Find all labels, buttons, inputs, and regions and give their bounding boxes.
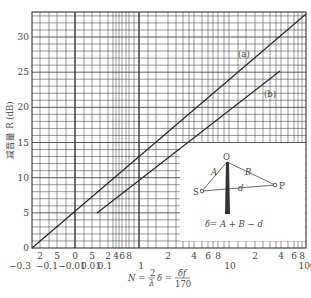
y-tick-labels: 051015202530 [18, 32, 30, 253]
svg-text:25: 25 [18, 67, 30, 77]
x-axis-label: N = 2 λ δ = δf 170 [127, 268, 191, 289]
svg-text:0.1: 0.1 [98, 261, 112, 271]
svg-text:5: 5 [89, 251, 95, 261]
svg-text:5: 5 [23, 208, 29, 218]
svg-text:4: 4 [191, 251, 197, 261]
inset-formula: δ= A + B − d [205, 219, 263, 229]
svg-text:15: 15 [18, 138, 30, 148]
y-axis-label: 减音量 R (dB) [5, 101, 15, 158]
chart: (a) (b) O S P A B d δ= A + B − d 0510152… [0, 0, 311, 298]
svg-text:100: 100 [298, 261, 311, 271]
inset-label-p: P [279, 181, 285, 191]
svg-text:2: 2 [105, 251, 111, 261]
svg-text:5: 5 [54, 251, 60, 261]
svg-text:δ =: δ = [157, 273, 172, 283]
x-tick-labels-minor: 2505246824682468 [37, 251, 305, 261]
inset-label-a: A [210, 167, 217, 177]
receiver-point-icon [273, 183, 277, 187]
svg-text:−0.3: −0.3 [9, 261, 31, 271]
svg-text:2: 2 [37, 251, 43, 261]
series-a-label: (a) [238, 49, 250, 59]
svg-text:λ: λ [148, 278, 154, 288]
inset-label-s: S [193, 187, 199, 197]
series-b-label: (b) [264, 89, 276, 99]
svg-text:6: 6 [119, 251, 125, 261]
inset-label-b: B [244, 167, 251, 177]
svg-text:20: 20 [18, 102, 30, 112]
svg-text:1: 1 [138, 261, 144, 271]
svg-text:−0.1: −0.1 [36, 261, 58, 271]
svg-text:170: 170 [175, 279, 191, 289]
inset-label-d: d [238, 183, 244, 193]
svg-text:δf: δf [178, 268, 188, 278]
svg-text:6: 6 [205, 251, 211, 261]
svg-text:8: 8 [126, 251, 132, 261]
svg-text:8: 8 [215, 251, 221, 261]
svg-text:2: 2 [252, 251, 258, 261]
svg-text:N =: N = [127, 273, 145, 283]
svg-text:30: 30 [18, 32, 30, 42]
x-tick-labels-major: −0.3−0.1−0.010.010.1110100 [9, 261, 311, 271]
svg-text:0: 0 [23, 243, 29, 253]
svg-text:8: 8 [299, 251, 305, 261]
svg-text:10: 10 [18, 173, 30, 183]
svg-text:6: 6 [291, 251, 297, 261]
svg-text:0: 0 [72, 251, 78, 261]
svg-text:2: 2 [165, 251, 171, 261]
source-point-icon [200, 189, 204, 193]
svg-text:2: 2 [150, 268, 155, 278]
inset-label-o: O [223, 152, 230, 162]
svg-text:10: 10 [224, 261, 236, 271]
svg-text:4: 4 [278, 251, 284, 261]
